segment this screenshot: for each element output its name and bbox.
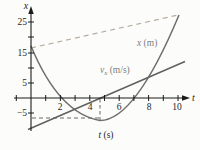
y-tick-label-5: 5: [22, 78, 27, 88]
position-curve-label-unit: (m): [141, 38, 157, 49]
kinematics-graph-figure: 25 15 5 −5 2 4 6 8 10 x t x (m) vx (m/s)…: [0, 0, 200, 150]
y-axis-arrow-icon: [28, 6, 33, 14]
t-axis-unit-label: t (s): [98, 130, 113, 141]
y-tick-label-neg5: −5: [17, 108, 27, 118]
t-tick-label-6: 6: [117, 102, 122, 112]
t-tick-label-4: 4: [88, 102, 93, 112]
t-tick-label-2: 2: [58, 102, 63, 112]
t-axis-arrow-icon: [182, 95, 190, 100]
y-tick-label-15: 15: [18, 48, 28, 58]
t-tick-label-8: 8: [147, 102, 152, 112]
t-tick-label-10: 10: [172, 102, 182, 112]
chart-canvas: 25 15 5 −5 2 4 6 8 10 x t x (m) vx (m/s)…: [0, 0, 200, 150]
y-axis-variable-label: x: [23, 0, 29, 11]
position-curve-label: x (m): [136, 38, 157, 49]
velocity-line-label: vx (m/s): [100, 65, 130, 77]
t-axis-unit-rest: (s): [101, 130, 113, 141]
velocity-label-unit: (m/s): [107, 65, 129, 76]
t-axis-variable-label: t: [192, 92, 195, 103]
y-tick-label-25: 25: [18, 17, 28, 27]
